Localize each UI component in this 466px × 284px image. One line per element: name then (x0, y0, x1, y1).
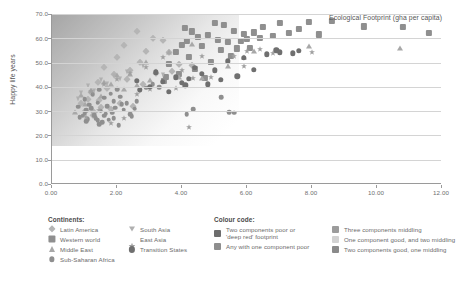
data-point (189, 41, 195, 46)
y-tick-mark (48, 38, 51, 39)
data-point (113, 105, 118, 110)
data-point (361, 23, 367, 29)
data-point (105, 104, 110, 109)
data-point (296, 48, 301, 53)
data-point (77, 115, 82, 120)
data-point (224, 39, 230, 45)
x-tick-label: 8.00 (305, 189, 317, 196)
data-point (161, 72, 165, 77)
x-tick-mark (246, 185, 247, 188)
data-point (76, 104, 81, 109)
legend-colour-heading: Colour code: (214, 216, 332, 223)
legend-colour-col2: . Three components middlingOne component… (332, 216, 462, 253)
data-point (79, 90, 83, 95)
data-point (309, 42, 315, 48)
y-tick-mark (48, 14, 51, 15)
legend-continents-col2: . South AsiaEast AsiaTransition States (128, 216, 208, 263)
data-point (426, 30, 432, 36)
legend-colour-swatch (214, 243, 221, 250)
legend-colour-item[interactable]: Two components good, one middling (332, 246, 462, 253)
x-tick-label: 0.00 (45, 189, 57, 196)
gridline (52, 87, 441, 88)
data-point (116, 123, 121, 128)
legend-continents-heading: Continents: (48, 216, 128, 223)
data-point (264, 52, 269, 57)
data-point (129, 114, 134, 119)
data-point-circle-dark (128, 246, 134, 252)
x-tick-label: 6.00 (240, 189, 252, 196)
legend-marker-star-icon (128, 236, 135, 243)
x-tick-label: 12.00 (433, 189, 449, 196)
legend-continents-col1: Continents: Latin AmericaWestern worldMi… (48, 216, 128, 263)
x-tick-mark (181, 185, 182, 188)
legend-item[interactable]: South Asia (128, 226, 208, 233)
data-point (134, 99, 139, 104)
legend-colour-label: Two components good, one middling (344, 246, 447, 253)
legend-marker-circle-icon (48, 256, 55, 263)
legend-colour-item[interactable]: Any with one component poor (214, 243, 332, 250)
data-point-star (128, 236, 135, 243)
data-point (76, 97, 80, 102)
data-point (315, 31, 321, 37)
data-point-triangle (49, 246, 55, 252)
legend-colour-swatch (214, 230, 221, 237)
legend-item-label: Latin America (60, 226, 98, 233)
gridline (52, 38, 441, 39)
legend-item[interactable]: Middle East (48, 246, 128, 253)
data-point (231, 27, 237, 33)
y-tick-mark (48, 184, 51, 185)
legend-colour-swatch (332, 226, 339, 233)
x-axis-title: Ecological Footprint (gha per capita) (0, 14, 466, 21)
data-point (244, 41, 250, 47)
x-axis: 0.002.004.006.008.0010.0012.00 (51, 185, 443, 205)
data-point (219, 95, 224, 100)
legend-item[interactable]: Latin America (48, 226, 128, 233)
data-point-square (48, 236, 55, 243)
data-point (97, 87, 102, 92)
legend-continents: Continents: Latin AmericaWestern worldMi… (48, 216, 208, 263)
legend-item[interactable]: Western world (48, 236, 128, 243)
data-point (172, 49, 178, 55)
y-tick-mark (48, 160, 51, 161)
legend-colour-item[interactable]: Three components middling (332, 226, 462, 233)
y-tick-mark (48, 135, 51, 136)
data-point (260, 24, 266, 30)
legend-colour-swatch (332, 236, 339, 243)
gridline (52, 63, 441, 64)
gridline (52, 111, 441, 112)
legend-item[interactable]: East Asia (128, 236, 208, 243)
x-tick-label: 2.00 (110, 189, 122, 196)
legend-item-label: South Asia (140, 226, 170, 233)
data-point (182, 25, 188, 31)
y-tick-label: 10.0 (4, 156, 48, 163)
x-tick-mark (311, 185, 312, 188)
legend-item[interactable]: Sub-Saharan Africa (48, 256, 128, 263)
gridline (52, 135, 441, 136)
legend-item[interactable]: Transition States (128, 246, 208, 253)
legend-colour-item[interactable]: Two components poor or 'deep red' footpr… (214, 226, 332, 241)
legend-colour-label: Any with one component poor (226, 243, 309, 250)
data-point-inverted-triangle (129, 227, 135, 232)
data-point (95, 118, 100, 123)
legend-colour-item[interactable]: One component good, and two middling (332, 236, 462, 243)
data-point (159, 46, 165, 52)
legend-colour-code: Colour code: Two components poor or 'dee… (214, 216, 462, 253)
legend-colour-col1: Colour code: Two components poor or 'dee… (214, 216, 332, 253)
legend-marker-triangle-icon (48, 246, 55, 253)
y-tick-mark (48, 111, 51, 112)
y-axis-title: Happy life years (9, 20, 16, 140)
y-tick-mark (48, 63, 51, 64)
data-point (296, 26, 302, 32)
data-point (198, 45, 204, 51)
data-point (124, 101, 129, 106)
x-tick-mark (51, 185, 52, 188)
legend-marker-inverted-triangle-icon (128, 226, 135, 233)
data-point (189, 28, 195, 34)
data-point-diamond (48, 226, 55, 233)
data-point (290, 51, 295, 56)
data-point (257, 39, 263, 45)
data-point (397, 46, 403, 51)
data-point (185, 54, 191, 60)
data-point (251, 49, 257, 54)
chart-area: 0.010.020.030.040.050.060.070.0 Happy li… (0, 0, 466, 212)
